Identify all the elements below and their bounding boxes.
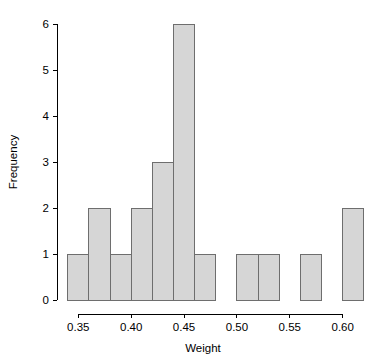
histogram-plot: 0123456 0.350.400.450.500.550.60 Weight …: [0, 0, 383, 363]
y-axis-tick-label: 4: [43, 110, 50, 122]
histogram-bar: [300, 254, 321, 300]
histogram-bar: [258, 254, 279, 300]
histogram-bar: [110, 254, 131, 300]
y-axis-tick-label: 3: [43, 156, 49, 168]
y-axis-tick-label: 5: [43, 64, 49, 76]
histogram-figure: 0123456 0.350.400.450.500.550.60 Weight …: [0, 0, 383, 363]
x-axis-tick-label: 0.55: [279, 321, 301, 333]
y-axis-tick-label: 6: [43, 18, 49, 30]
histogram-bar: [195, 254, 216, 300]
y-axis-tick-label: 0: [43, 294, 49, 306]
histogram-bar: [237, 254, 258, 300]
y-axis-tick-label: 2: [43, 202, 49, 214]
histogram-bar: [131, 208, 152, 300]
x-axis-tick-label: 0.50: [226, 321, 248, 333]
y-axis-tick-label: 1: [43, 248, 49, 260]
x-axis-title: Weight: [185, 342, 221, 354]
x-axis-tick-label: 0.40: [120, 321, 142, 333]
histogram-bar: [152, 162, 173, 300]
x-axis-tick-label: 0.60: [332, 321, 354, 333]
y-axis-title: Frequency: [7, 135, 19, 190]
x-axis-tick-label: 0.45: [173, 321, 195, 333]
x-axis-tick-label: 0.35: [67, 321, 89, 333]
histogram-bar: [343, 208, 364, 300]
histogram-bar: [89, 208, 110, 300]
histogram-bar: [173, 24, 194, 300]
histogram-bar: [68, 254, 89, 300]
